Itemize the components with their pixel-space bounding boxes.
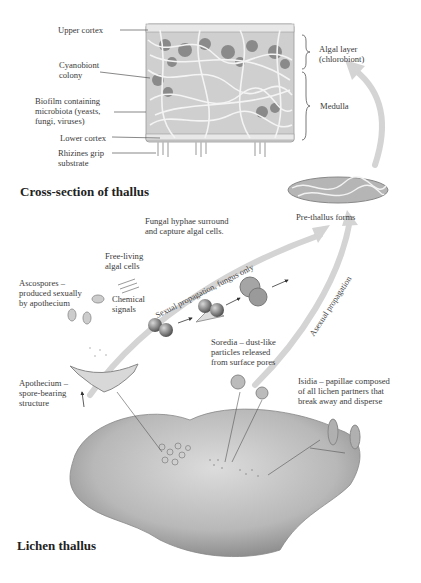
title-lichen-thallus: Lichen thallus (17, 538, 96, 554)
title-cross-section: Cross-section of thallus (20, 184, 149, 200)
label-fungal-hyphae: Fungal hyphae surround and capture algal… (145, 216, 229, 236)
label-cyanobiont-colony: Cyanobiont colony (59, 60, 99, 80)
label-apothecium: Apothecium – spore-bearing structure (19, 378, 68, 408)
cross-section-block (146, 24, 294, 157)
label-pre-thallus: Pre-thallus forms (296, 212, 355, 222)
label-soredia: Soredia – dust-like particles released f… (211, 337, 276, 367)
lichen-thallus-shape (70, 409, 360, 556)
label-medulla: Medulla (320, 101, 349, 111)
label-algal-layer: Algal layer (chlorobiont) (319, 44, 364, 64)
label-isidia: Isidia – papillae composed of all lichen… (298, 376, 390, 406)
label-upper-cortex: Upper cortex (58, 25, 103, 35)
label-lower-cortex: Lower cortex (60, 133, 106, 143)
label-ascospores: Ascospores – produced sexually by apothe… (19, 278, 82, 308)
label-rhizines: Rhizines grip substrate (58, 148, 104, 168)
label-free-living-algal-cells: Free-living algal cells (105, 251, 143, 271)
pre-thallus (288, 177, 388, 203)
label-biofilm: Biofilm containing microbiota (yeasts, f… (35, 96, 100, 126)
label-chemical-signals: Chemical signals (112, 294, 145, 314)
